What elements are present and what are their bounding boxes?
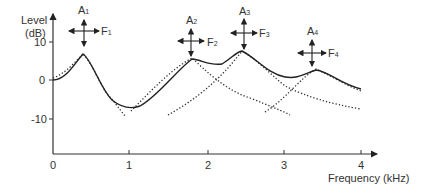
y-tick-10: 10 — [34, 36, 46, 48]
frequency-label-4: F4 — [328, 47, 339, 61]
formant-2-tail — [290, 102, 361, 115]
amplitude-label-3: A3 — [239, 5, 250, 19]
formant-2-control — [178, 29, 204, 56]
amplitude-label-4: A4 — [307, 25, 318, 39]
formant-2-curve — [131, 58, 290, 115]
frequency-label-3: F3 — [259, 27, 270, 41]
y-tick-0: 0 — [39, 74, 45, 86]
x-tick-2: 2 — [205, 159, 211, 171]
frequency-label-1: F1 — [101, 25, 112, 39]
y-axis-label-line1: Level — [21, 14, 47, 26]
x-tick-4: 4 — [358, 159, 364, 171]
x-tick-0: 0 — [50, 159, 56, 171]
x-tick-1: 1 — [126, 159, 132, 171]
formant-4-control — [298, 40, 326, 66]
x-tick-3: 3 — [281, 159, 287, 171]
formant-1-curve — [53, 54, 125, 116]
formant-3-control — [231, 19, 257, 49]
formant-curves — [53, 51, 361, 116]
formant-1-control — [69, 20, 99, 46]
x-axis-label: Frequency (kHz) — [328, 172, 409, 184]
amplitude-label-1: A1 — [78, 4, 89, 18]
amplitude-label-2: A2 — [186, 14, 197, 28]
frequency-label-2: F2 — [207, 36, 218, 50]
y-tick-neg10: -10 — [31, 113, 47, 125]
overall-response-curve — [53, 51, 361, 108]
